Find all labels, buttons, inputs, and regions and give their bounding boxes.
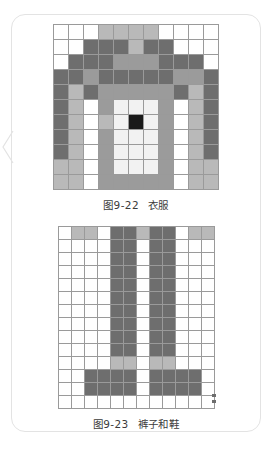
grid-cell: [174, 175, 189, 190]
grid-cell: [137, 357, 150, 370]
grid-cell: [202, 357, 215, 370]
grid-cell: [189, 292, 202, 305]
grid-cell: [84, 160, 99, 175]
grid-cell: [163, 292, 176, 305]
grid-cell: [85, 318, 98, 331]
grid-cell: [84, 130, 99, 145]
grid-cell: [189, 344, 202, 357]
grid-cell: [150, 227, 163, 240]
grid-cell: [124, 305, 137, 318]
grid-cell: [98, 383, 111, 396]
grid-cell: [189, 370, 202, 383]
grid-cell: [84, 100, 99, 115]
grid-cell: [129, 175, 144, 190]
grid-cell: [163, 227, 176, 240]
grid-cell: [69, 115, 84, 130]
grid-cell: [150, 383, 163, 396]
grid-cell: [202, 318, 215, 331]
clothes-grid-wrap: [53, 24, 219, 190]
grid-cell: [144, 70, 159, 85]
grid-cell: [137, 227, 150, 240]
grid-cell: [99, 85, 114, 100]
grid-cell: [204, 160, 219, 175]
grid-cell: [59, 383, 72, 396]
grid-cell: [150, 357, 163, 370]
grid-cell: [114, 175, 129, 190]
grid-cell: [159, 130, 174, 145]
grid-cell: [174, 145, 189, 160]
grid-cell: [72, 240, 85, 253]
grid-cell: [129, 115, 144, 130]
grid-cell: [204, 55, 219, 70]
grid-cell: [174, 40, 189, 55]
grid-cell: [72, 253, 85, 266]
grid-cell: [159, 100, 174, 115]
grid-cell: [111, 318, 124, 331]
grid-cell: [137, 383, 150, 396]
grid-cell: [144, 175, 159, 190]
grid-cell: [176, 279, 189, 292]
grid-cell: [137, 253, 150, 266]
grid-cell: [144, 145, 159, 160]
grid-cell: [163, 383, 176, 396]
grid-cell: [99, 115, 114, 130]
grid-cell: [189, 305, 202, 318]
grid-cell: [189, 70, 204, 85]
grid-cell: [99, 100, 114, 115]
grid-cell: [54, 40, 69, 55]
grid-cell: [189, 85, 204, 100]
grid-cell: [98, 331, 111, 344]
grid-cell: [54, 160, 69, 175]
grid-cell: [163, 279, 176, 292]
grid-cell: [144, 25, 159, 40]
grid-cell: [114, 85, 129, 100]
grid-cell: [111, 240, 124, 253]
grid-cell: [137, 266, 150, 279]
grid-cell: [159, 70, 174, 85]
grid-cell: [98, 370, 111, 383]
grid-cell: [163, 266, 176, 279]
grid-cell: [98, 318, 111, 331]
grid-cell: [124, 331, 137, 344]
grid-cell: [202, 227, 215, 240]
grid-cell: [174, 115, 189, 130]
grid-cell: [124, 383, 137, 396]
figure-pants-and-shoes: 图9-23裤子和鞋: [0, 226, 272, 431]
grid-cell: [159, 40, 174, 55]
grid-cell: [72, 344, 85, 357]
grid-cell: [202, 344, 215, 357]
grid-cell: [189, 318, 202, 331]
grid-cell: [189, 357, 202, 370]
grid-cell: [163, 240, 176, 253]
grid-cell: [189, 55, 204, 70]
grid-cell: [159, 175, 174, 190]
grid-cell: [114, 25, 129, 40]
grid-cell: [124, 292, 137, 305]
grid-cell: [98, 357, 111, 370]
grid-cell: [159, 55, 174, 70]
grid-cell: [174, 55, 189, 70]
grid-cell: [159, 25, 174, 40]
grid-cell: [176, 331, 189, 344]
grid-cell: [129, 145, 144, 160]
grid-cell: [59, 318, 72, 331]
grid-cell: [111, 396, 124, 409]
grid-cell: [59, 344, 72, 357]
grid-cell: [189, 100, 204, 115]
grid-cell: [150, 253, 163, 266]
grid-cell: [176, 266, 189, 279]
grid-cell: [69, 25, 84, 40]
grid-cell: [85, 344, 98, 357]
grid-cell: [204, 130, 219, 145]
grid-cell: [98, 292, 111, 305]
grid-cell: [124, 279, 137, 292]
grid-cell: [150, 279, 163, 292]
grid-cell: [111, 253, 124, 266]
grid-cell: [85, 305, 98, 318]
grid-cell: [176, 344, 189, 357]
grid-cell: [176, 357, 189, 370]
grid-cell: [99, 55, 114, 70]
grid-cell: [150, 344, 163, 357]
grid-cell: [72, 266, 85, 279]
grid-cell: [54, 100, 69, 115]
